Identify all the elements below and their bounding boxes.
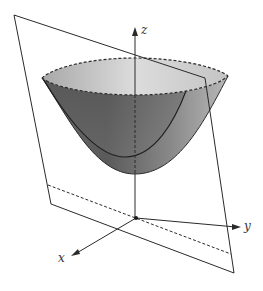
x-axis-arrowhead [71, 249, 80, 256]
y-axis-label: y [244, 220, 251, 232]
y-axis-arrowhead [232, 224, 241, 230]
figure-canvas: z y x [0, 0, 263, 291]
x-axis [75, 218, 136, 254]
z-axis-arrowhead [132, 27, 138, 36]
y-axis [136, 218, 236, 227]
z-axis-label: z [141, 24, 147, 36]
paraboloid-plane-diagram [0, 0, 263, 291]
plane-dashed-trace [48, 185, 231, 254]
origin-point [134, 216, 138, 220]
x-axis-label: x [58, 252, 65, 264]
